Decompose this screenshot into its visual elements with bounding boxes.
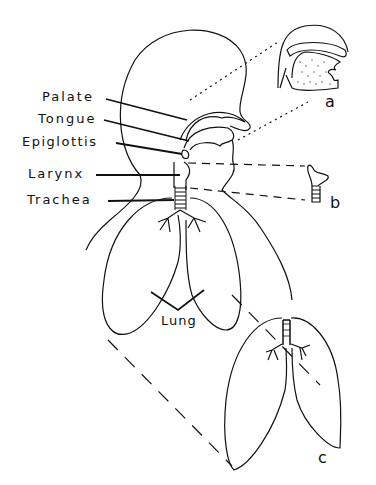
label-tongue: Tongue <box>38 111 96 126</box>
panel-a-stipple <box>297 59 330 84</box>
palate-shape <box>180 112 245 140</box>
respiratory-diagram: Palate Tongue Epiglottis Larynx Trachea … <box>0 0 376 485</box>
diagram-drawing <box>0 0 376 485</box>
panel-a-drawing <box>278 25 348 90</box>
panel-label-c: c <box>318 448 327 467</box>
label-larynx: Larynx <box>28 166 84 181</box>
leader-lines <box>96 99 189 201</box>
lung-bracket <box>151 290 204 310</box>
label-trachea: Trachea <box>27 192 92 207</box>
tongue-shape <box>184 127 234 150</box>
label-palate: Palate <box>42 89 94 104</box>
panel-label-b: b <box>330 193 340 212</box>
trachea-rings <box>175 186 186 210</box>
head-outline <box>120 30 250 175</box>
label-lung: Lung <box>161 313 197 328</box>
projection-b <box>188 163 305 200</box>
larynx-shape <box>174 162 190 190</box>
label-epiglottis: Epiglottis <box>22 134 97 149</box>
panel-b-drawing <box>308 165 329 202</box>
panel-label-a: a <box>325 92 335 111</box>
neck-back-outline <box>86 175 141 250</box>
epiglottis-shape <box>182 150 189 158</box>
projection-a <box>190 42 308 140</box>
bronchi <box>158 210 206 232</box>
